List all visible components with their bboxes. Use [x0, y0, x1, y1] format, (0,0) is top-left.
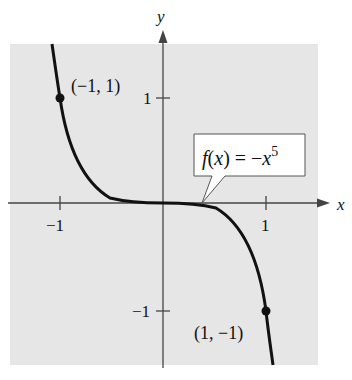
x-axis-label: x: [336, 195, 345, 214]
point-label-neg1-1: (−1, 1): [71, 76, 120, 97]
point-neg1-1: [56, 94, 65, 103]
y-axis-arrow-icon: [159, 30, 168, 43]
function-graph: x y −1 1 1 −1 (−1, 1) (1, −1) f(x) = −x5: [0, 0, 352, 380]
x-axis-arrow-icon: [317, 199, 330, 208]
svg-text:f(x) = −x5: f(x) = −x5: [202, 144, 278, 170]
y-tick-label-1: 1: [143, 89, 152, 108]
x-tick-label-1: 1: [261, 216, 270, 235]
y-axis-label: y: [155, 7, 165, 26]
x-tick-label-neg1: −1: [46, 216, 64, 235]
point-1-neg1: [262, 307, 271, 316]
point-label-1-neg1: (1, −1): [194, 323, 243, 344]
y-tick-label-neg1: −1: [132, 302, 150, 321]
